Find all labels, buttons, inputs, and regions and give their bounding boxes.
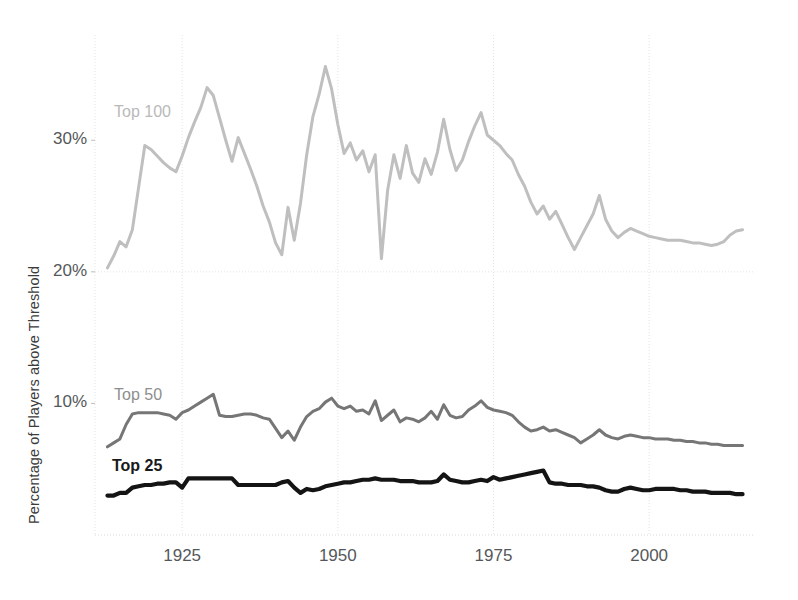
series-label-top-25: Top 25 <box>112 457 162 475</box>
chart-container: Percentage of Players above Threshold To… <box>0 0 798 600</box>
line-chart-plot <box>0 0 798 600</box>
series-line-top-25 <box>107 471 742 496</box>
x-tick-label: 1975 <box>453 546 533 566</box>
series-label-top-50: Top 50 <box>114 386 162 404</box>
x-tick-label: 1925 <box>142 546 222 566</box>
y-tick-label: 20% <box>35 261 87 281</box>
series-label-top-100: Top 100 <box>114 103 171 121</box>
y-tick-label: 10% <box>35 392 87 412</box>
x-tick-label: 1950 <box>298 546 378 566</box>
y-tick-label: 30% <box>35 129 87 149</box>
series-line-top-50 <box>107 394 742 447</box>
x-tick-label: 2000 <box>609 546 689 566</box>
series-line-top-100 <box>107 67 742 268</box>
